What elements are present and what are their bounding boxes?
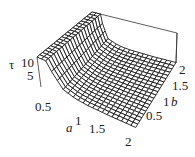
a-tick-1.5: 1.5 — [89, 122, 105, 135]
z-tick-5: 5 — [27, 69, 34, 82]
a-tick-1: 1 — [75, 114, 82, 127]
b-axis-label: b — [171, 95, 178, 108]
b-tick-1.5: 1.5 — [172, 79, 188, 92]
b-tick-1: 1 — [163, 95, 170, 108]
a-tick-2: 2 — [125, 135, 132, 148]
b-tick-2: 2 — [179, 63, 186, 76]
b-tick-0.5: 0.5 — [146, 109, 162, 122]
a-axis-label: a — [66, 121, 73, 134]
a-tick-0.5: 0.5 — [35, 100, 51, 113]
z-axis-label: τ — [9, 58, 14, 71]
surface-plot: τ 10 5 0.5 1 a 1.5 2 2 1.5 1 b 0.5 — [0, 0, 195, 157]
